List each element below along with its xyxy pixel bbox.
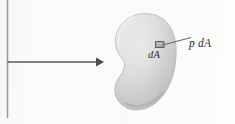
dA-square-inner <box>157 43 162 46</box>
flow-arrow <box>8 58 105 67</box>
figure-canvas: p dA dA <box>0 0 235 124</box>
curved-surface-blob <box>115 14 176 110</box>
label-area-element: dA <box>148 50 160 61</box>
blob-sheen <box>115 14 176 110</box>
label-pressure-force: p dA <box>189 38 211 50</box>
figure-vector-layer <box>0 0 235 124</box>
dA-square <box>156 42 165 48</box>
flow-arrow-head <box>96 58 104 67</box>
